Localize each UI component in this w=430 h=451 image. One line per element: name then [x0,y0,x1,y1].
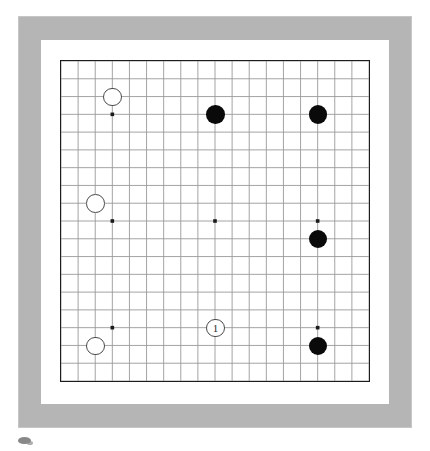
black-stone-top-center[interactable] [206,105,225,124]
scan-artifact-smudge-tail [27,441,33,445]
go-diagram-page: 1 [0,0,430,451]
white-stone-bottom-left[interactable] [86,337,105,356]
move-number-label: 1 [207,320,224,337]
white-stone-left[interactable] [86,194,105,213]
white-stone-top-left[interactable] [103,88,122,107]
white-stone-move-1[interactable]: 1 [206,319,225,338]
go-board[interactable]: 1 [60,60,370,382]
